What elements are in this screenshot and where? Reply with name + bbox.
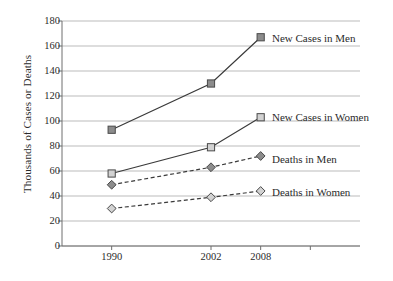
series-label-3: Deaths in Men xyxy=(272,154,337,165)
series-label-1: New Cases in Men xyxy=(272,33,355,44)
chart-legend: New Cases in MenNew Cases in WomenDeaths… xyxy=(0,0,393,281)
line-chart: Thousands of Cases or Deaths 02040608010… xyxy=(0,0,393,281)
series-label-2: New Cases in Women xyxy=(272,112,369,123)
series-label-4: Deaths in Women xyxy=(272,187,350,198)
